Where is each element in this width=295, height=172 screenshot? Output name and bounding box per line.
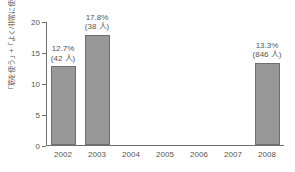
bar-chart: 「筋を使う」+「よく/非常に使う」の割合(%) 05101520 12.7%(4… — [0, 0, 295, 172]
y-tick-mark — [42, 146, 46, 147]
y-tick-mark — [42, 115, 46, 116]
plot-area: 05101520 12.7%(42 人)17.8%(38 人)13.3%(846… — [46, 22, 284, 146]
bar-label-2003: 17.8%(38 人) — [85, 13, 109, 32]
bar-label-2008: 13.3%(846 人) — [253, 41, 282, 60]
y-tick-label: 10 — [31, 80, 40, 89]
x-label-2008: 2008 — [258, 150, 276, 159]
y-axis-line — [46, 22, 47, 146]
y-tick-mark — [42, 84, 46, 85]
y-tick-label: 0 — [36, 142, 40, 151]
y-tick-label: 20 — [31, 18, 40, 27]
bar-2003 — [85, 35, 110, 145]
bar-percent-2008: 13.3% — [253, 41, 282, 51]
bar-count-2003: (38 人) — [85, 22, 109, 32]
bar-percent-2002: 12.7% — [51, 44, 75, 54]
bar-percent-2003: 17.8% — [85, 13, 109, 23]
bar-2008 — [255, 63, 280, 145]
x-axis-line — [46, 145, 284, 146]
x-label-2005: 2005 — [156, 150, 174, 159]
y-axis-label: 「筋を使う」+「よく/非常に使う」の割合(%) — [5, 0, 19, 93]
x-label-2002: 2002 — [54, 150, 72, 159]
bar-count-2002: (42 人) — [51, 54, 75, 64]
bar-label-2002: 12.7%(42 人) — [51, 44, 75, 63]
y-tick-label: 15 — [31, 49, 40, 58]
y-tick-label: 5 — [36, 111, 40, 120]
bar-count-2008: (846 人) — [253, 50, 282, 60]
x-label-2007: 2007 — [224, 150, 242, 159]
y-tick-mark — [42, 53, 46, 54]
x-label-2006: 2006 — [190, 150, 208, 159]
x-label-2004: 2004 — [122, 150, 140, 159]
x-label-2003: 2003 — [88, 150, 106, 159]
bar-2002 — [51, 66, 76, 145]
y-tick-mark — [42, 22, 46, 23]
